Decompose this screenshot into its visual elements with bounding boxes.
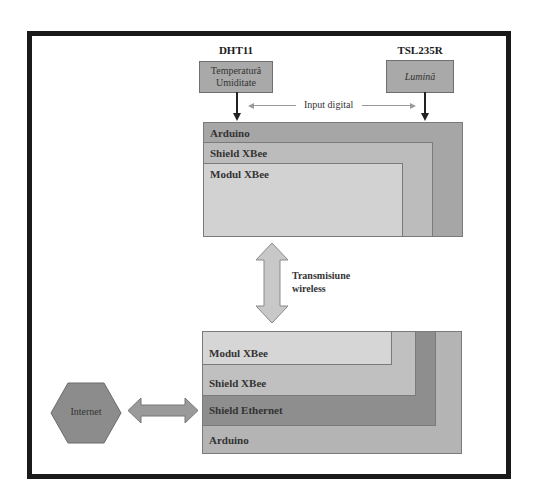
- input-digital-label: Input digital: [304, 99, 353, 110]
- top-layer-modul-xbee-label: Modul XBee: [210, 168, 269, 180]
- top-layer-shield-xbee-label: Shield XBee: [210, 147, 267, 159]
- sensor-line-light: Lumină: [405, 71, 436, 83]
- arrow-dht11-head: [233, 113, 241, 121]
- sensor-line-humidity: Umiditate: [216, 77, 256, 89]
- input-arrow-right-head: [410, 103, 416, 109]
- background-text: [150, 2, 154, 19]
- arrow-dht11-shaft: [236, 92, 238, 114]
- sensor-title-dht11: DHT11: [199, 44, 273, 56]
- top-layer-arduino-label: Arduino: [210, 127, 250, 139]
- bottom-layer-shield-xbee-label: Shield XBee: [209, 377, 266, 389]
- top-layer-modul-xbee: Modul XBee: [203, 163, 403, 237]
- sensor-box-light: Lumină: [386, 60, 454, 93]
- sensor-box-temperature-humidity: Temperatură Umiditate: [199, 61, 273, 93]
- internet-label: Internet: [50, 406, 122, 417]
- arrow-tsl235r-head: [421, 113, 429, 121]
- sensor-title-tsl235r: TSL235R: [386, 44, 454, 56]
- wireless-label-line1: Transmisiune: [292, 270, 350, 281]
- arrow-tsl235r-shaft: [424, 92, 426, 114]
- bottom-layer-modul-xbee-label: Modul XBee: [209, 347, 268, 359]
- input-arrow-right-line: [362, 105, 410, 106]
- internet-double-arrow-icon: [127, 397, 199, 424]
- bottom-layer-shield-ethernet-label: Shield Ethernet: [209, 404, 283, 416]
- sensor-line-temperature: Temperatură: [211, 65, 261, 77]
- wireless-double-arrow-icon: [255, 242, 289, 324]
- input-arrow-left-line: [254, 105, 296, 106]
- bottom-layer-modul-xbee: Modul XBee: [202, 331, 392, 365]
- bottom-layer-arduino-label: Arduino: [209, 434, 249, 446]
- input-arrow-left-head: [248, 103, 254, 109]
- wireless-label-line2: wireless: [292, 283, 326, 294]
